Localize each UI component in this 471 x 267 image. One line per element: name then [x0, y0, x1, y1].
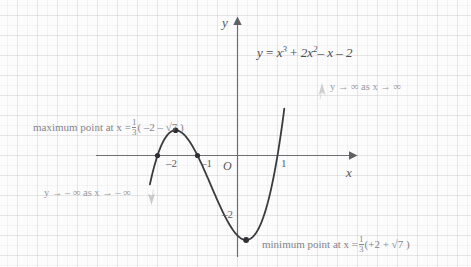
minimum-point-fraction: 13 — [359, 235, 364, 255]
maximum-point-text: maximum point at x = — [33, 121, 131, 133]
x-tick-label-minus1: –1 — [201, 158, 212, 169]
equation-plus: + — [290, 45, 297, 60]
y-tick-label-minus2: –2 — [222, 209, 233, 220]
maximum-point-fraction: 13 — [132, 118, 137, 138]
origin-label: O — [223, 160, 232, 172]
x-axis-label: x — [346, 166, 352, 179]
graph-figure: y x O –2 –1 1 –2 y = x3 + 2x2– x – 2 max… — [0, 0, 471, 267]
end-behaviour-down-arrow-icon — [148, 190, 155, 206]
x-tick-label-1: 1 — [281, 158, 287, 169]
minimum-point-marker — [243, 237, 249, 243]
end-behaviour-up-arrow-icon — [319, 83, 326, 99]
equation-term2: 2x2 — [301, 45, 318, 60]
minimum-point-text: minimum point at x = — [262, 238, 358, 250]
minimum-point-annotation: minimum point at x =13(+2 + √7 ) — [262, 236, 410, 256]
equation-equals: = — [266, 45, 273, 60]
root-point-minus2 — [155, 153, 160, 158]
end-behaviour-left-label: y → – ∞ as x → – ∞ — [44, 188, 131, 199]
maximum-point-annotation: maximum point at x =13( –2 – √7 ) — [33, 119, 184, 139]
equation-lhs: y — [257, 45, 263, 60]
y-axis-label: y — [222, 16, 228, 29]
x-tick-label-minus2: –2 — [166, 158, 177, 169]
minimum-point-bracket: (+2 + √7 ) — [365, 238, 410, 250]
equation-term1: x3 — [277, 45, 287, 60]
equation-term3: – x – 2 — [317, 45, 352, 60]
maximum-point-bracket: ( –2 – √7 ) — [137, 121, 183, 133]
end-behaviour-right-label: y → ∞ as x → ∞ — [330, 82, 401, 93]
equation-label: y = x3 + 2x2– x – 2 — [257, 45, 352, 59]
root-point-minus1 — [195, 153, 200, 158]
